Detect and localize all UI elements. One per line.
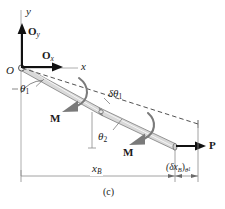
- moment-lower-label: M: [123, 147, 133, 158]
- moment-upper-label: M: [50, 113, 60, 124]
- theta-2-label: θ2: [98, 131, 107, 144]
- moment-lower-arrowhead: [129, 134, 145, 146]
- Ox-force-subscript: x: [51, 54, 54, 63]
- beam-segment-1: [22, 66, 101, 116]
- dimension-arrow-delta-right: [191, 174, 198, 178]
- dimension-arrow-xB-right: [168, 174, 175, 178]
- theta-2-subscript: 2: [103, 135, 107, 144]
- dimension-label-xB: xB: [90, 163, 103, 176]
- delta-theta-1-label: δθ1: [108, 88, 122, 101]
- Oy-force-label: Oy: [28, 26, 40, 39]
- delta-xB-outer-number: 1: [188, 166, 191, 172]
- theta-1-subscript: 1: [25, 87, 29, 96]
- Ox-force-label: Ox: [42, 50, 54, 63]
- Oy-force-arrowhead: [18, 23, 27, 34]
- origin-label: O: [6, 65, 14, 76]
- Oy-force-subscript: y: [37, 30, 40, 39]
- P-force-label: P: [209, 140, 216, 151]
- delta-xB-prefix: (δx: [166, 162, 178, 172]
- dimension-label-delta-xB: (δxB)θ1: [166, 163, 191, 173]
- y-axis-label: y: [26, 6, 31, 17]
- theta-1-label: θ1: [20, 83, 29, 96]
- P-force-arrowhead: [195, 141, 206, 150]
- xB-subscript: B: [97, 167, 102, 176]
- figure-caption: (c): [103, 187, 114, 197]
- Ox-force-arrowhead: [52, 63, 63, 72]
- Oy-force-base: O: [28, 25, 37, 37]
- x-axis-label: x: [81, 61, 86, 72]
- delta-theta-1-subscript: 1: [119, 92, 123, 101]
- figure-container: y x Oy Ox O θ1 δθ1 M θ2 M P xB (δxB)θ1 (…: [0, 0, 225, 209]
- hinge-pin-icon: [99, 110, 103, 114]
- moment-upper-arrowhead: [62, 101, 78, 113]
- dimension-arrow-delta-left: [175, 174, 182, 178]
- delta-theta-1-base: δθ: [108, 87, 119, 99]
- Ox-force-base: O: [42, 49, 51, 61]
